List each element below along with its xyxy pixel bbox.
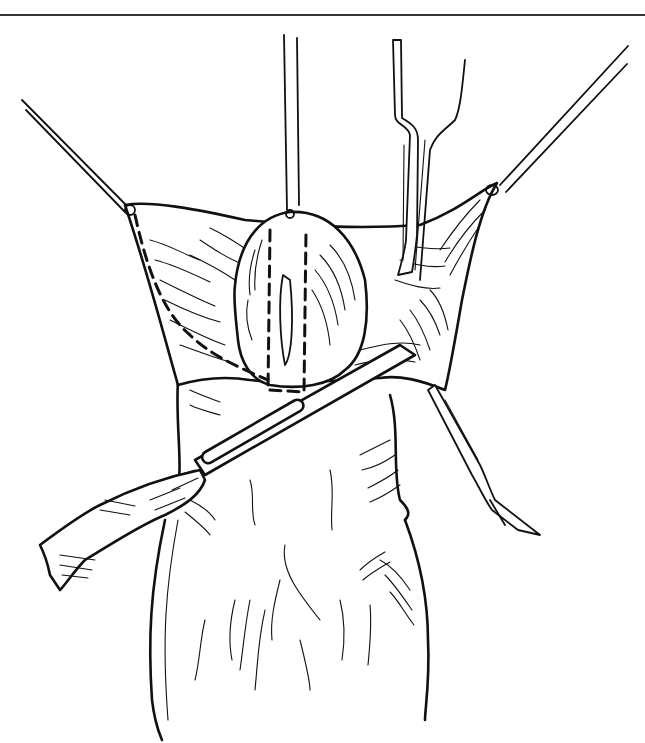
left-traction-suture	[22, 100, 128, 212]
shaft-body	[150, 380, 428, 740]
scalpel	[40, 345, 415, 590]
center-traction-suture	[284, 35, 299, 210]
surgical-illustration	[0, 0, 645, 743]
right-traction-suture	[500, 46, 628, 192]
illustration-canvas	[0, 0, 645, 743]
retractor-lower-right	[428, 385, 540, 535]
